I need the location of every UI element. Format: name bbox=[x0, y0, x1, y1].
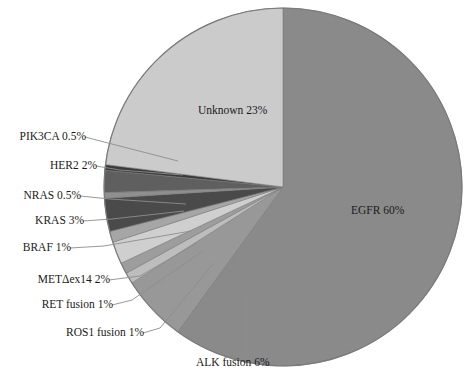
callout-label-ret-fusion: RET fusion 1% bbox=[0, 298, 113, 311]
pie-chart-svg: Unknown 23% EGFR 60% bbox=[0, 0, 466, 376]
callout-label-met-ex14: METΔex14 2% bbox=[0, 273, 110, 286]
callout-label-her2: HER2 2% bbox=[0, 159, 97, 172]
callout-label-braf: BRAF 1% bbox=[0, 241, 71, 254]
slice-label-egfr: EGFR 60% bbox=[351, 204, 405, 216]
slice-unknown[interactable] bbox=[105, 8, 283, 187]
slice-label-unknown: Unknown 23% bbox=[198, 104, 268, 116]
callout-label-pik3ca: PIK3CA 0.5% bbox=[0, 130, 86, 143]
pie-chart-figure: Unknown 23% EGFR 60% PIK3CA 0.5% HER2 2%… bbox=[0, 0, 466, 376]
callout-label-nras: NRAS 0.5% bbox=[0, 189, 81, 202]
callout-label-alk-fusion: ALK fusion 6% bbox=[196, 356, 269, 369]
callout-label-ros1-fusion: ROS1 fusion 1% bbox=[0, 326, 144, 339]
callout-label-kras: KRAS 3% bbox=[0, 214, 84, 227]
pie-slices bbox=[104, 8, 462, 366]
